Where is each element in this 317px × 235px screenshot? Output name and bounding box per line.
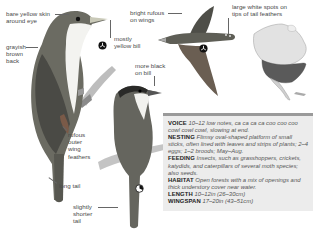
fact-wingspan: WINGSPAN 17–20in (43–51cm) [168, 198, 309, 205]
leader-line [168, 13, 182, 14]
label-wing-feathers: rufous outer wing feathers [68, 131, 90, 160]
fact-nesting: NESTING Flimsy oval-shaped platform of s… [168, 134, 309, 155]
label-bill: mostly yellow bill [114, 35, 140, 49]
label-rufous-wings: bright rufous on wings [130, 9, 164, 23]
label-back: grayish- brown back [6, 43, 28, 65]
label-long-tail: long tail [59, 182, 80, 189]
range-map [248, 22, 314, 102]
adult-symbol-flight-icon [199, 44, 208, 53]
label-shorter-tail: slightly shorter tail [73, 203, 92, 225]
fact-length: LENGTH 10–12in (26–30cm) [168, 191, 309, 198]
flight-cuckoo-illustration [158, 2, 238, 98]
adult-symbol-icon [98, 41, 107, 50]
leader-line [98, 207, 118, 208]
leader-line [26, 47, 38, 48]
leader-line [154, 76, 155, 86]
leader-line [110, 20, 111, 38]
fact-voice: VOICE 10–12 low notes, ca ca ca ca coo c… [168, 120, 309, 134]
leader-line [55, 14, 69, 15]
field-guide-page: bare yellow skin around eye grayish- bro… [0, 0, 317, 235]
fact-habitat: HABITAT Open forests with a mix of openi… [168, 177, 309, 191]
label-black-bill: more black on bill [135, 62, 165, 76]
label-tail-spots: large white spots on tips of tail feathe… [232, 3, 287, 17]
label-eye-skin: bare yellow skin around eye [6, 10, 50, 24]
fact-feeding: FEEDING Insects, such as grasshoppers, c… [168, 155, 309, 176]
leader-line [228, 18, 229, 34]
juvenile-symbol-icon [135, 184, 144, 193]
species-facts-box: VOICE 10–12 low notes, ca ca ca ca coo c… [163, 113, 313, 211]
